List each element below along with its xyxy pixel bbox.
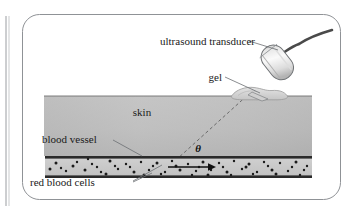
blood-vessel [45,156,312,178]
red-blood-cell-dot [164,171,166,173]
red-blood-cell-dot [291,166,293,168]
red-blood-cell-dot [241,168,243,170]
skin-layer [44,96,312,156]
red-blood-cell-dot [171,160,173,162]
red-blood-cell-dot [263,161,265,163]
label-ultrasound-transducer: ultrasound transducer [160,35,255,47]
red-blood-cell-dot [160,173,162,175]
red-blood-cell-dot [114,165,116,167]
red-blood-cell-dot [230,174,232,176]
red-blood-cell-dot [287,170,289,172]
red-blood-cell-dot [295,161,298,164]
label-red-blood-cells: red blood cells [30,176,95,188]
red-blood-cell-dot [133,171,136,174]
red-blood-cell-dot [140,161,142,163]
red-blood-cell-dot [49,168,52,171]
red-blood-cell-dot [84,169,87,172]
red-blood-cell-dot [156,162,159,165]
red-blood-cell-dot [267,165,269,167]
red-blood-cell-dot [100,171,102,173]
label-blood-vessel: blood vessel [42,133,97,145]
red-blood-cell-dot [271,169,274,172]
red-blood-cell-dot [109,160,112,163]
red-blood-cell-dot [55,162,58,165]
red-blood-cell-dot [233,160,235,162]
red-blood-cell-dot [306,165,308,167]
red-blood-cell-dot [279,162,281,164]
red-blood-cell-dot [125,163,127,165]
red-blood-cell-dot [72,165,75,168]
red-blood-cell-dot [202,161,205,164]
red-blood-cell-dot [148,169,150,171]
red-blood-cell-dot [299,174,301,176]
red-blood-cell-dot [129,166,131,168]
red-blood-cell-dot [195,170,197,172]
red-blood-cell-dot [60,167,62,169]
red-blood-cell-dot [91,163,93,165]
red-blood-cell-dot [76,161,78,163]
red-blood-cell-dot [87,158,89,160]
red-blood-cell-dot [275,173,278,176]
skin-shading [44,96,312,156]
red-blood-cell-dot [252,173,254,175]
red-blood-cell-dot [105,173,108,176]
red-blood-cell-dot [248,163,251,166]
red-blood-cell-dot [222,166,224,168]
label-skin: skin [133,106,152,118]
red-blood-cell-dot [256,171,258,173]
diagram-canvas: ultrasound transducer gel skin blood ves… [0,0,361,214]
red-blood-cell-dot [187,163,189,165]
red-blood-cell-dot [96,166,98,168]
red-blood-cell-dot [218,162,220,164]
label-gel: gel [209,71,222,83]
label-angle-theta: θ [195,142,201,154]
ultrasound-diagram-figure: ultrasound transducer gel skin blood ves… [0,0,361,214]
red-blood-cell-dot [226,171,229,174]
red-blood-cell-dot [65,170,67,172]
red-blood-cell-dot [152,165,154,167]
red-blood-cell-dot [303,169,305,171]
red-blood-cell-dot [179,169,182,172]
red-blood-cell-dot [245,166,248,169]
red-blood-cell-dot [191,174,193,176]
red-blood-cell-dot [117,168,119,170]
